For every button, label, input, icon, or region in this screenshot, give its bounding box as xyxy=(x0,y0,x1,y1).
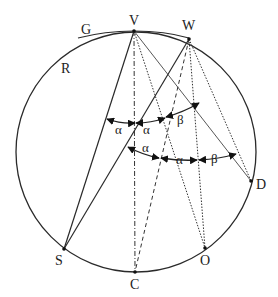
label-g: G xyxy=(81,22,91,37)
point-d-dot xyxy=(249,179,253,183)
upper-beta-label: β xyxy=(177,112,184,127)
line-v-s xyxy=(64,31,134,249)
label-v: V xyxy=(129,13,139,28)
line-v-c xyxy=(134,31,135,272)
label-r: R xyxy=(61,61,71,76)
label-w: W xyxy=(182,18,196,33)
lower-alpha-2-label: α xyxy=(176,152,183,167)
lower-beta-label: β xyxy=(211,151,218,166)
point-v-dot xyxy=(132,29,136,33)
geometry-diagram: G V W R D O C S α α β α α β xyxy=(0,0,278,297)
label-s: S xyxy=(55,253,63,268)
point-c-dot xyxy=(133,270,137,274)
upper-alpha-2-label: α xyxy=(143,122,150,137)
label-d: D xyxy=(256,177,266,192)
point-w-dot xyxy=(187,37,191,41)
point-s-dot xyxy=(62,247,66,251)
point-o-dot xyxy=(203,246,207,250)
lower-alpha-1-label: α xyxy=(142,140,149,155)
label-o: O xyxy=(200,253,210,268)
main-circle xyxy=(16,32,256,272)
upper-alpha-1-label: α xyxy=(115,122,122,137)
label-c: C xyxy=(130,277,139,292)
line-w-s xyxy=(64,39,189,249)
